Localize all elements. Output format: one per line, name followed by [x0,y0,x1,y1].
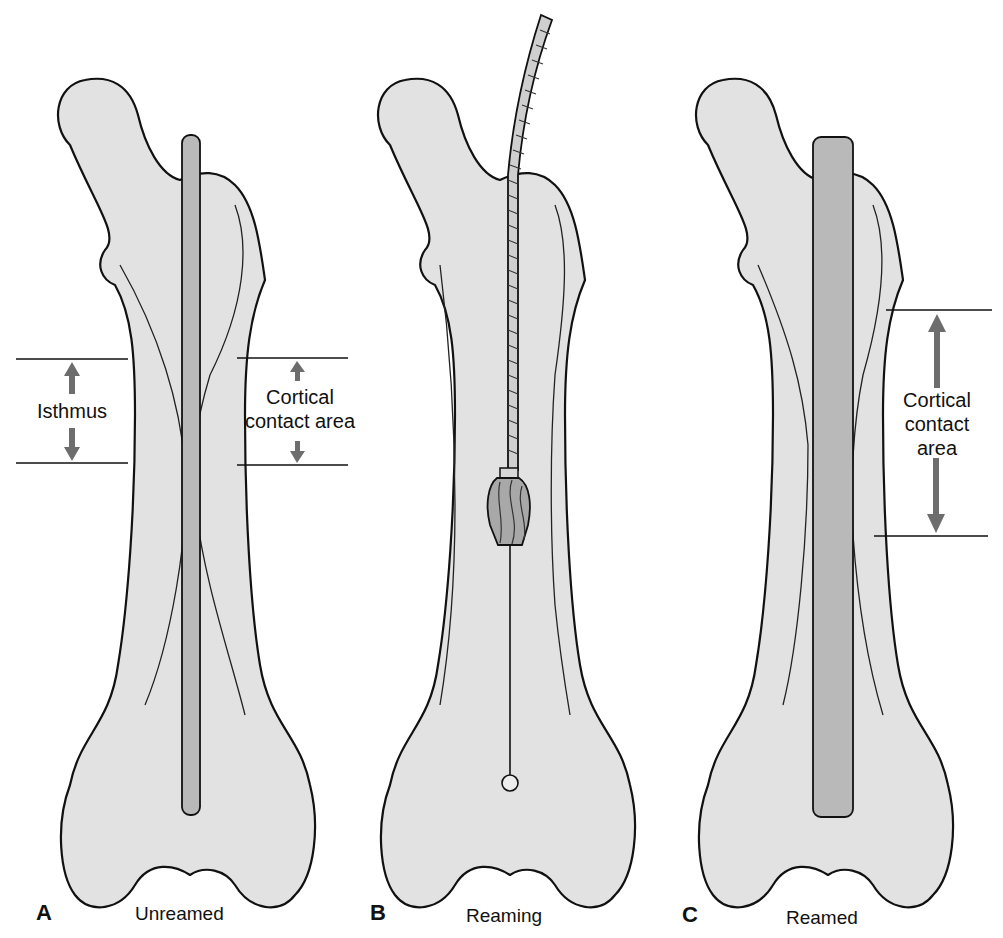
unreamed-nail [182,135,200,815]
up-arrow-icon [290,361,305,372]
panel-a [58,79,315,908]
isthmus-down-arrow-shaft [69,428,75,450]
cortical-label-a-line2: contact area [245,410,356,432]
up-arrow-icon [928,314,946,332]
up-arrow-icon [64,362,80,376]
panel-letter-a: A [36,900,52,925]
down-arrow-icon [290,451,305,463]
panel-caption-b: Reaming [466,905,542,926]
cortical-label-c-line3: area [917,437,958,459]
contact-down-arrow-shaft-a [295,441,300,451]
isthmus-annotation: Isthmus [16,359,128,463]
cortical-contact-annotation-a: Cortical contact area [237,358,356,465]
panel-caption-a: Unreamed [135,903,224,924]
down-arrow-icon [64,447,80,461]
contact-down-arrow-shaft-c [933,458,939,516]
reamed-nail [813,137,853,817]
isthmus-label: Isthmus [37,400,107,422]
femur-nailing-diagram: Isthmus Cortical contact area [0,0,1003,938]
cortical-label-c-line2: contact [905,413,970,435]
cortical-contact-annotation-c: Cortical contact area [874,310,992,536]
down-arrow-icon [927,514,945,533]
panel-letter-c: C [682,902,698,927]
contact-up-arrow-shaft-c [934,328,940,388]
panel-letter-b: B [370,900,386,925]
cortical-label-a-line1: Cortical [266,386,334,408]
panel-c [696,79,953,908]
guide-wire-ball-tip [502,775,518,791]
reamer-head [488,478,530,545]
cortical-label-c-line1: Cortical [903,389,971,411]
panel-caption-c: Reamed [786,907,858,928]
reamer-collar [500,468,518,478]
